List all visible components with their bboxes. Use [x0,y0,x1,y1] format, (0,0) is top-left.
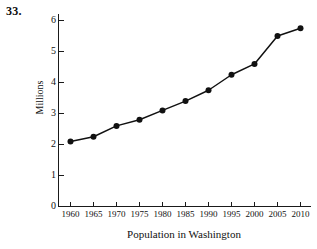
data-point-1990 [206,87,212,93]
x-axis-ticks [71,202,301,207]
figure-container: 33. [0,0,316,249]
y-axis-ticks [59,21,64,207]
data-point-1970 [114,123,120,129]
data-point-1975 [137,117,143,123]
x-axis-title: Population in Washington [58,228,310,241]
data-point-1960 [68,138,74,144]
chart-plot-area: 6 5 4 3 2 1 0 1960 1965 1970 1975 1980 1… [0,0,316,249]
y-tick-label-6: 6 [40,15,56,25]
axes-group [59,14,312,207]
data-point-2010 [298,25,304,31]
data-markers [68,25,304,144]
data-point-1985 [183,98,189,104]
data-point-2005 [275,33,281,39]
y-tick-label-1: 1 [40,170,56,180]
data-point-1995 [229,72,235,78]
data-series-line [71,28,301,141]
y-tick-label-5: 5 [40,46,56,56]
data-point-1965 [91,134,97,140]
x-tick-label-2010: 2010 [284,209,317,219]
y-axis-title: Millions [34,58,45,138]
y-tick-label-2: 2 [40,139,56,149]
data-point-1980 [160,107,166,113]
data-point-2000 [252,61,258,67]
